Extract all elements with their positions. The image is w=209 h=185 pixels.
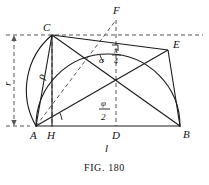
label-phi-denominator: 2 bbox=[101, 112, 106, 122]
label-point-D: D bbox=[111, 129, 120, 141]
label-point-F: F bbox=[112, 4, 120, 16]
label-phi-over-2: φ 2 bbox=[99, 98, 110, 122]
caption-label: FIG. bbox=[84, 162, 105, 173]
dashed-segment-AF bbox=[36, 20, 116, 126]
label-point-E: E bbox=[172, 38, 180, 50]
caption-number: 180 bbox=[108, 162, 125, 173]
figure-180: A H D B C E F r l ρ α φ 2 π 4 FIG. 180 bbox=[0, 0, 209, 185]
label-point-B: B bbox=[183, 128, 190, 140]
geometry-diagram: A H D B C E F r l ρ α φ 2 π 4 bbox=[0, 0, 209, 185]
left-arc-segment bbox=[26, 35, 52, 126]
radius-dimension bbox=[11, 35, 16, 126]
angle-arc-phi-half bbox=[60, 113, 62, 120]
label-pi-numerator: π bbox=[114, 46, 118, 55]
solid-segments bbox=[36, 35, 180, 126]
label-alpha: α bbox=[99, 55, 104, 65]
figure-caption: FIG. 180 bbox=[0, 162, 209, 173]
arc-C-to-A bbox=[26, 35, 52, 126]
label-point-C: C bbox=[43, 21, 51, 33]
label-point-A: A bbox=[29, 129, 37, 141]
label-phi-numerator: φ bbox=[101, 98, 106, 108]
label-point-H: H bbox=[46, 129, 56, 141]
label-radius: r bbox=[1, 81, 13, 86]
label-length: l bbox=[105, 142, 108, 154]
label-pi-denominator: 4 bbox=[114, 57, 118, 66]
radius-arrow-bottom bbox=[11, 120, 16, 126]
radius-arrow-top bbox=[11, 35, 16, 41]
